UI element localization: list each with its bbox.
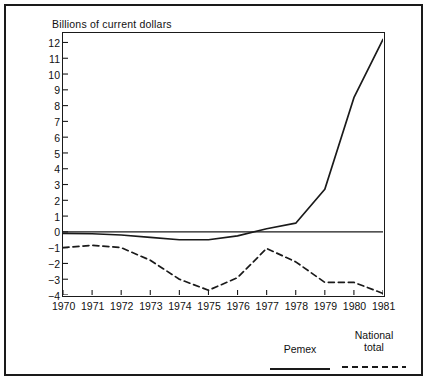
legend-label-pemex: Pemex bbox=[269, 343, 331, 355]
chart-legend: Pemex National total bbox=[255, 325, 415, 373]
y-tick-label: 11 bbox=[49, 54, 60, 65]
chart-title: Billions of current dollars bbox=[52, 18, 172, 30]
y-axis-ticks bbox=[63, 42, 68, 295]
y-tick-label: 8 bbox=[54, 101, 60, 112]
plot-area bbox=[62, 32, 385, 297]
x-axis: 1970197119721973197419751976197719781979… bbox=[62, 300, 385, 316]
y-tick-label: 9 bbox=[54, 85, 60, 96]
x-tick-label: 1976 bbox=[226, 300, 249, 312]
x-tick-label: 1970 bbox=[52, 300, 75, 312]
x-tick-label: 1974 bbox=[168, 300, 191, 312]
y-tick-label: 10 bbox=[48, 69, 60, 80]
x-tick-label: 1981 bbox=[372, 300, 395, 312]
x-tick-label: 1980 bbox=[343, 300, 366, 312]
y-tick-label: 5 bbox=[54, 148, 60, 159]
y-tick-label: −2 bbox=[48, 259, 60, 270]
x-tick-label: 1975 bbox=[197, 300, 220, 312]
x-tick-label: 1979 bbox=[314, 300, 337, 312]
x-tick-label: 1977 bbox=[256, 300, 279, 312]
x-tick-label: 1971 bbox=[81, 300, 104, 312]
x-tick-label: 1973 bbox=[139, 300, 162, 312]
series-line-pemex bbox=[63, 39, 383, 239]
series-line-national-total bbox=[63, 245, 383, 293]
y-axis: 1211109876543210−1−2−3−4 bbox=[28, 32, 60, 297]
y-tick-label: −3 bbox=[48, 275, 60, 286]
y-tick-label: 4 bbox=[54, 164, 60, 175]
legend-entry-pemex: Pemex bbox=[269, 343, 331, 364]
y-tick-label: 7 bbox=[54, 117, 60, 128]
legend-swatch-pemex-solid bbox=[269, 358, 331, 364]
legend-label-national-line2: total bbox=[341, 341, 407, 353]
y-tick-label: 0 bbox=[54, 227, 60, 238]
chart-figure: Billions of current dollars 121110987654… bbox=[0, 0, 430, 383]
legend-swatch-national-dashed bbox=[341, 356, 407, 362]
y-tick-label: 3 bbox=[54, 180, 60, 191]
y-tick-label: 6 bbox=[54, 133, 60, 144]
legend-label-national-line1: National bbox=[341, 329, 407, 341]
y-tick-label: −1 bbox=[48, 243, 60, 254]
y-tick-label: 12 bbox=[48, 38, 60, 49]
y-tick-label: 1 bbox=[54, 211, 60, 222]
y-tick-label: 2 bbox=[54, 196, 60, 207]
plot-lines bbox=[63, 33, 383, 295]
x-axis-ticks bbox=[63, 290, 383, 295]
x-tick-label: 1972 bbox=[110, 300, 133, 312]
legend-entry-national-total: National total bbox=[341, 329, 407, 362]
x-tick-label: 1978 bbox=[285, 300, 308, 312]
